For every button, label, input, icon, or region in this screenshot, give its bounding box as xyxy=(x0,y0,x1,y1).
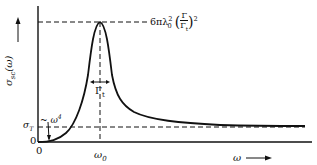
outer-superscript: 2 xyxy=(194,15,198,23)
origin-x-label: 0 xyxy=(36,146,42,156)
fraction-numerator: Γ xyxy=(180,11,188,21)
peak-value-label: 6πλ20 (ΓΓt)2 xyxy=(150,11,198,34)
rayleigh-label: ~ ω4 xyxy=(40,114,62,125)
linewidth-gamma: Γ xyxy=(95,85,102,96)
y-axis-arrowhead-icon xyxy=(16,17,21,24)
peak-prefix: 6πλ xyxy=(150,16,168,27)
gamma-ratio-fraction: ΓΓt xyxy=(180,11,188,34)
lambda-subscript: 0 xyxy=(168,22,172,30)
resonance-subscript: 0 xyxy=(102,155,106,163)
thomson-subscript: T xyxy=(29,125,33,132)
y-axis-label: σsc(ω) xyxy=(4,56,17,86)
thomson-label: σT xyxy=(23,121,33,132)
sc-subscript: sc xyxy=(9,72,17,80)
width-arrow-right-head-icon xyxy=(106,80,110,84)
x-axis-label: ω xyxy=(233,153,241,163)
rayleigh-superscript: 4 xyxy=(58,113,62,120)
resonance-curve xyxy=(38,22,305,142)
resonance-frequency-label: ω0 xyxy=(94,150,107,163)
width-arrow-left-head-icon xyxy=(90,80,94,84)
linewidth-subscript: t xyxy=(102,91,105,99)
rayleigh-omega: ~ ω xyxy=(40,115,58,125)
linewidth-label: Γt xyxy=(95,86,105,99)
fraction-denominator: Γt xyxy=(180,21,188,34)
resonance-omega: ω xyxy=(94,149,102,160)
omega-argument: (ω) xyxy=(3,56,14,72)
sigma-symbol: σ xyxy=(3,79,14,86)
x-axis-arrowhead-icon xyxy=(265,156,272,161)
